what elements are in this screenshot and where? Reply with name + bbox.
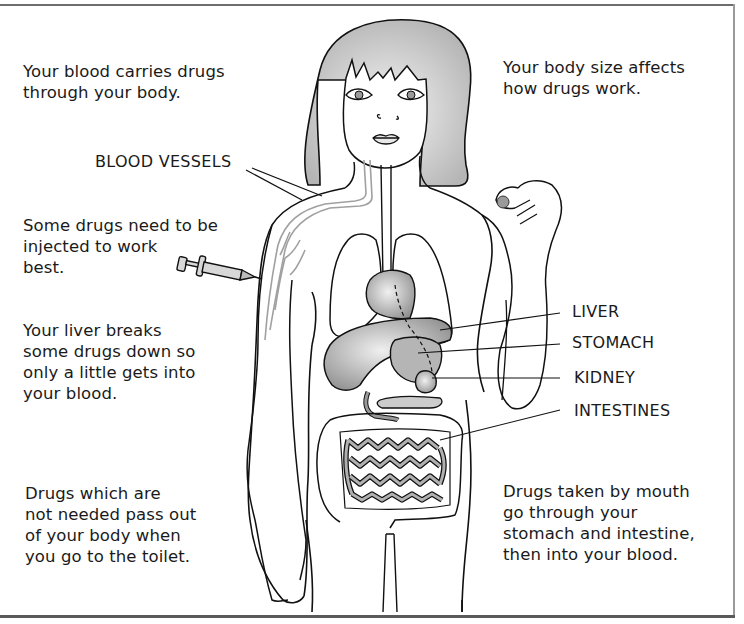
caption-liver-breaks: Your liver breaks some drugs down so onl… [23, 320, 195, 404]
caption-line: stomach and intestine, [503, 523, 695, 544]
caption-line: best. [23, 257, 218, 278]
label-stomach: STOMACH [572, 333, 654, 352]
caption-line: Drugs taken by mouth [503, 481, 695, 502]
mouth [373, 134, 399, 144]
caption-blood-carries: Your blood carries drugs through your bo… [23, 61, 225, 103]
caption-line: Some drugs need to be [23, 215, 218, 236]
label-liver: LIVER [572, 302, 619, 321]
caption-line: your blood. [23, 383, 195, 404]
label-kidney: KIDNEY [574, 368, 635, 387]
caption-line: how drugs work. [503, 78, 685, 99]
caption-line: Your blood carries drugs [23, 61, 225, 82]
caption-line: Drugs which are [25, 483, 196, 504]
face [343, 60, 427, 168]
pill-icon [497, 196, 509, 208]
caption-line: Your body size affects [503, 57, 685, 78]
esophagus [381, 165, 391, 280]
caption-line: of your body when [25, 525, 196, 546]
liver-leader [440, 313, 560, 330]
caption-injected: Some drugs need to be injected to work b… [23, 215, 218, 278]
caption-pass-out: Drugs which are not needed pass out of y… [25, 483, 196, 567]
heart [366, 270, 415, 318]
pancreas [377, 396, 442, 408]
caption-line: go through your [503, 502, 695, 523]
label-blood-vessels: BLOOD VESSELS [95, 152, 231, 171]
hanging-arm [247, 225, 306, 601]
label-intestines: INTESTINES [574, 401, 670, 420]
raised-arm [482, 181, 561, 409]
caption-line: Your liver breaks [23, 320, 195, 341]
kidney-organ [416, 371, 437, 393]
caption-by-mouth: Drugs taken by mouth go through your sto… [503, 481, 695, 565]
caption-body-size: Your body size affects how drugs work. [503, 57, 685, 99]
caption-line: then into your blood. [503, 544, 695, 565]
leg-gap [383, 534, 397, 612]
caption-line: only a little gets into [23, 362, 195, 383]
caption-line: through your body. [23, 82, 225, 103]
caption-line: you go to the toilet. [25, 546, 196, 567]
caption-line: some drugs down so [23, 341, 195, 362]
intestines-leader [440, 410, 560, 440]
caption-line: injected to work [23, 236, 218, 257]
caption-line: not needed pass out [25, 504, 196, 525]
